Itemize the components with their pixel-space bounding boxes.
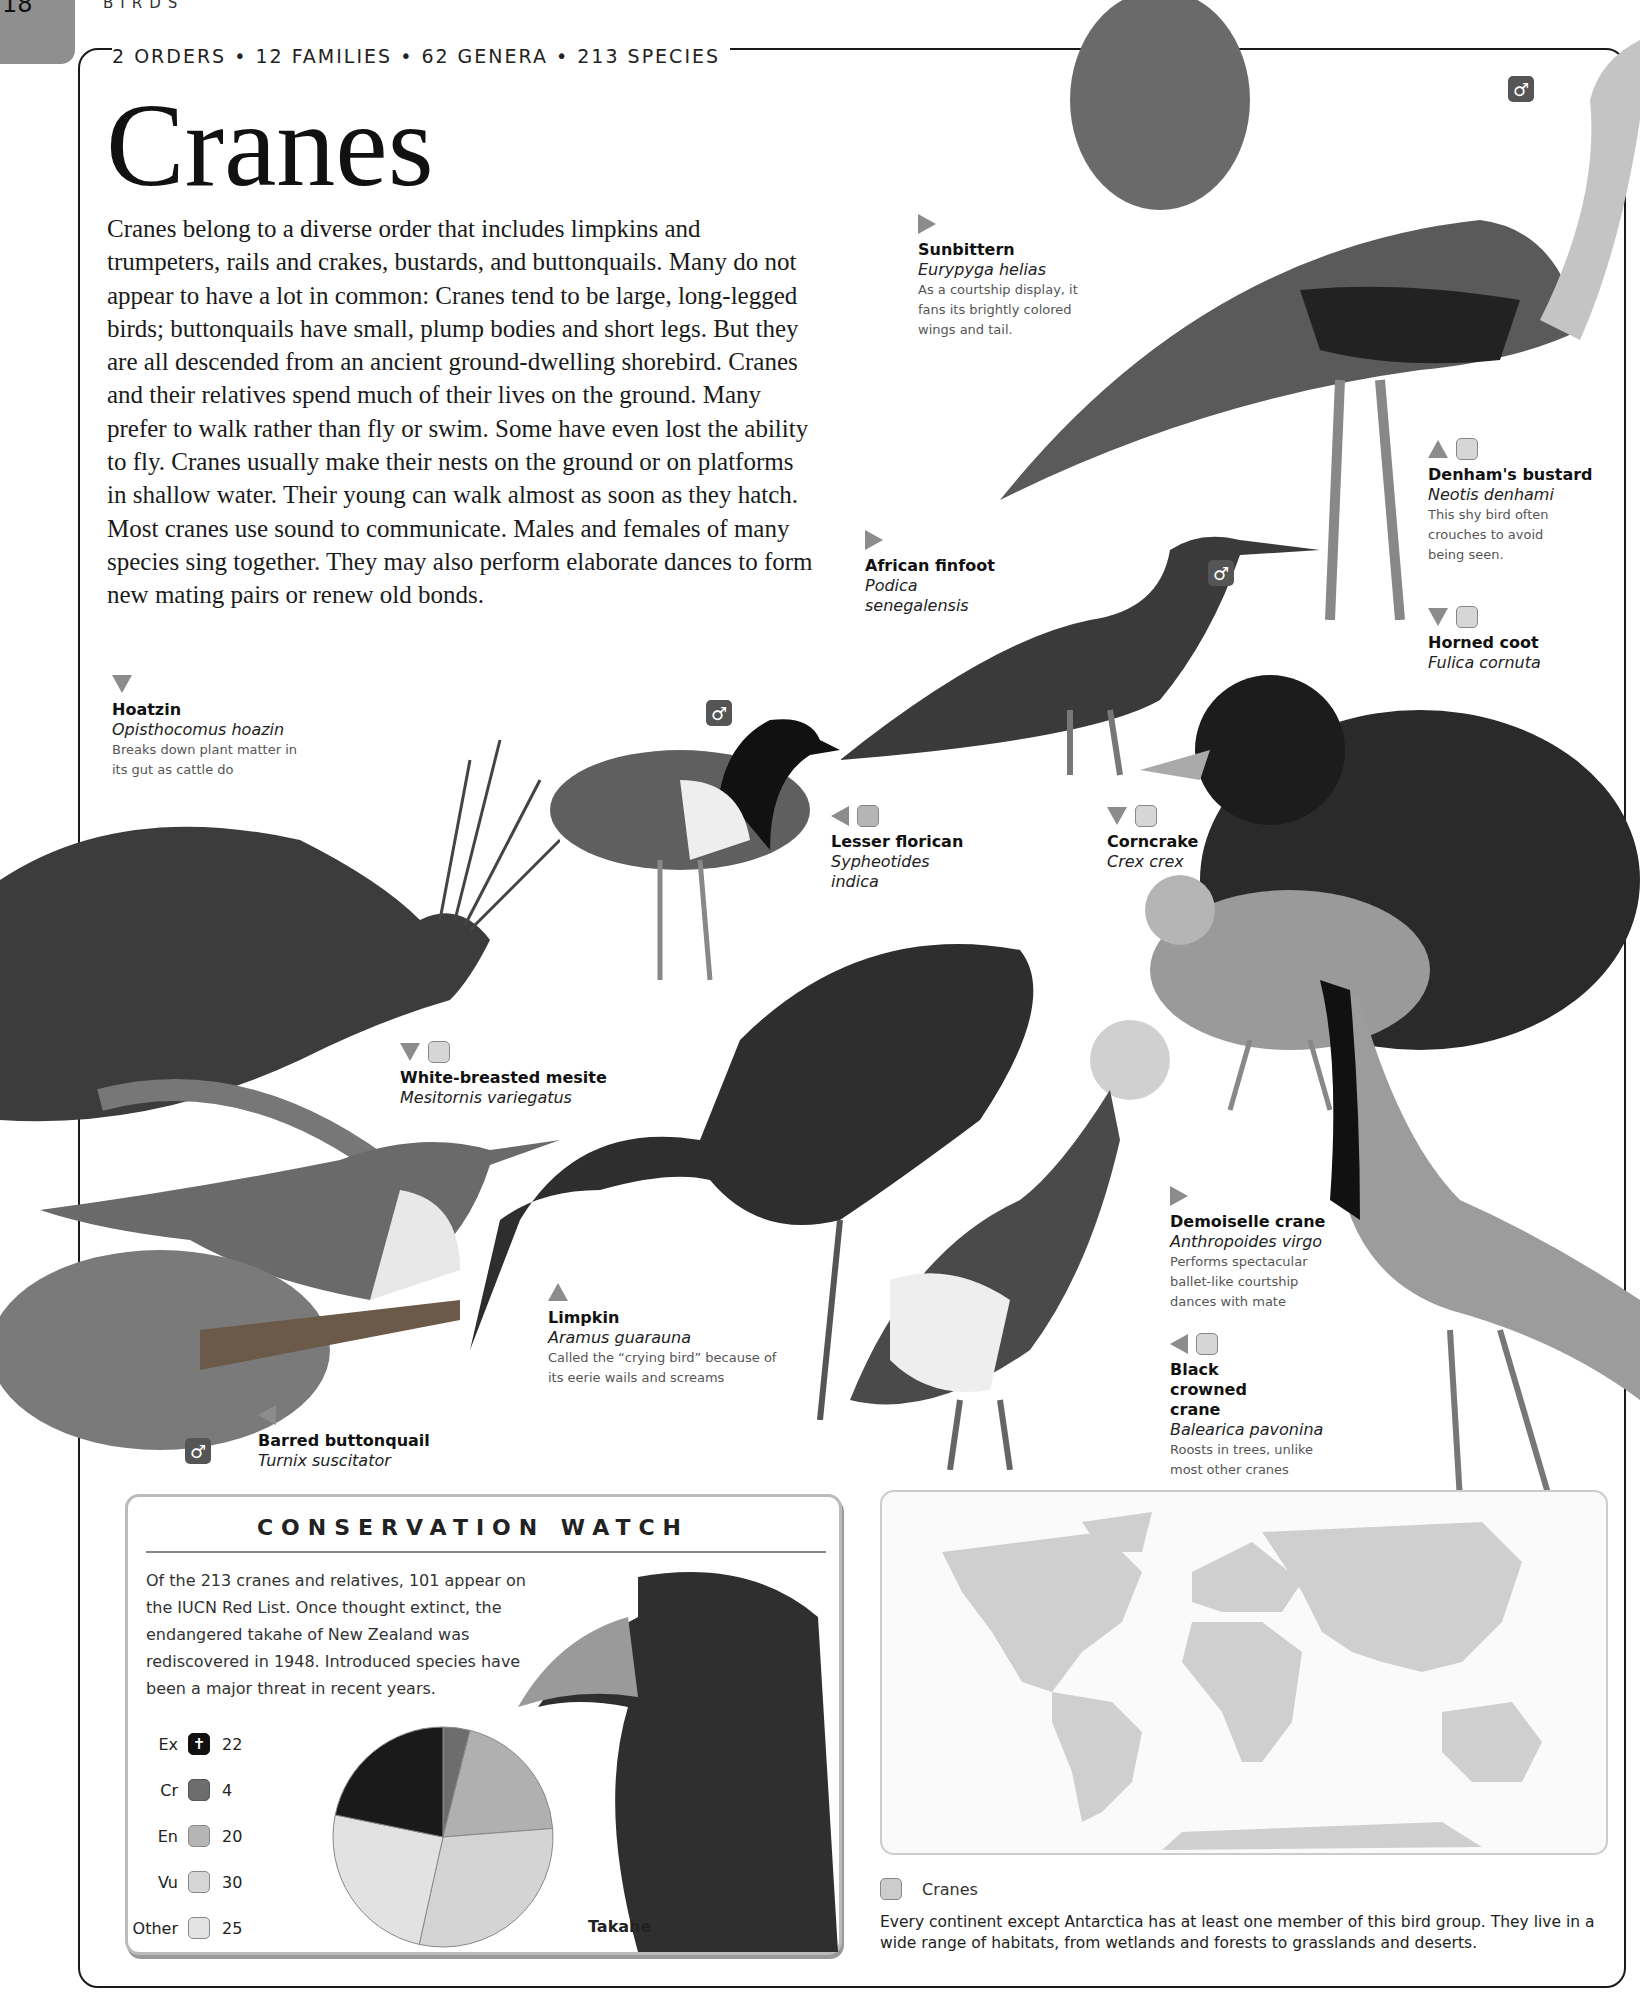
pointer-down-icon: [1428, 608, 1448, 626]
vulnerable-status-icon: [1456, 606, 1478, 628]
iucn-pie-chart: [328, 1722, 558, 1952]
intro-paragraph: Cranes belong to a diverse order that in…: [107, 212, 819, 612]
vulnerable-status-icon: [188, 1871, 210, 1893]
pointer-right-icon: [1170, 1186, 1188, 1206]
section-label: BIRDS: [103, 0, 184, 12]
distribution-map: [880, 1490, 1608, 1855]
male-symbol-icon: ♂: [1508, 76, 1534, 102]
species-label-african-finfoot: African finfoot Podica senegalensis: [865, 528, 995, 616]
species-label-white-breasted-mesite: White-breasted mesite Mesitornis variega…: [400, 1040, 607, 1108]
species-label-sunbittern: Sunbittern Eurypyga helias As a courtshi…: [918, 212, 1088, 340]
pointer-left-icon: [831, 806, 849, 826]
male-symbol-icon: ♂: [185, 1438, 211, 1464]
page-number: 18: [2, 0, 33, 18]
takahe-label: Takahe: [588, 1917, 651, 1936]
species-label-hoatzin: Hoatzin Opisthocomus hoazin Breaks down …: [112, 672, 302, 780]
map-legend-label: Cranes: [922, 1880, 978, 1899]
divider: [146, 1551, 826, 1553]
pointer-left-icon: [258, 1405, 276, 1425]
taxonomy-stats: 2 ORDERS • 12 FAMILIES • 62 GENERA • 213…: [112, 45, 730, 67]
legend-row-other: Other 25: [128, 1917, 242, 1939]
vulnerable-status-icon: [1456, 438, 1478, 460]
species-label-barred-buttonquail: Barred buttonquail Turnix suscitator: [258, 1403, 430, 1471]
pointer-down-icon: [400, 1043, 420, 1061]
legend-row-vu: Vu 30: [128, 1871, 242, 1893]
world-map: [882, 1492, 1606, 1853]
legend-row-ex: Ex ✝ 22: [128, 1733, 242, 1755]
vulnerable-status-icon: [1135, 805, 1157, 827]
pointer-left-icon: [1170, 1334, 1188, 1354]
pointer-right-icon: [865, 530, 883, 550]
species-label-horned-coot: Horned coot Fulica cornuta: [1428, 605, 1541, 673]
species-label-demoiselle-crane: Demoiselle crane Anthropoides virgo Perf…: [1170, 1184, 1330, 1312]
critical-status-icon: [188, 1779, 210, 1801]
demoiselle-crane-illustration: [1300, 980, 1640, 1500]
species-label-denhams-bustard: Denham's bustard Neotis denhami This shy…: [1428, 437, 1593, 565]
pointer-right-icon: [918, 214, 936, 234]
other-status-icon: [188, 1917, 210, 1939]
species-label-black-crowned-crane: Black crowned crane Balearica pavonina R…: [1170, 1332, 1340, 1480]
legend-row-cr: Cr 4: [128, 1779, 232, 1801]
endangered-status-icon: [188, 1825, 210, 1847]
pointer-down-icon: [1107, 807, 1127, 825]
species-label-corncrake: Corncrake Crex crex: [1107, 804, 1198, 872]
pointer-up-icon: [548, 1283, 568, 1301]
page-title: Cranes: [106, 78, 434, 214]
lesser-florican-illustration: [540, 700, 840, 990]
map-caption: Every continent except Antarctica has at…: [880, 1912, 1600, 1954]
pointer-down-icon: [112, 675, 132, 693]
endangered-status-icon: [857, 805, 879, 827]
legend-row-en: En 20: [128, 1825, 242, 1847]
species-label-lesser-florican: Lesser florican Sypheotides indica: [831, 804, 963, 892]
vulnerable-status-icon: [428, 1041, 450, 1063]
vulnerable-status-icon: [1196, 1333, 1218, 1355]
cranes-range-swatch: [880, 1878, 902, 1900]
takahe-illustration: [518, 1557, 838, 1952]
map-legend: Cranes: [880, 1878, 978, 1900]
species-label-limpkin: Limpkin Aramus guarauna Called the “cryi…: [548, 1280, 788, 1388]
conservation-title: CONSERVATION WATCH: [128, 1515, 818, 1540]
pointer-up-icon: [1428, 440, 1448, 458]
male-symbol-icon: ♂: [1208, 560, 1234, 586]
conservation-watch-panel: CONSERVATION WATCH Of the 213 cranes and…: [125, 1494, 842, 1955]
cross-icon: ✝: [188, 1733, 210, 1755]
male-symbol-icon: ♂: [706, 700, 732, 726]
conservation-text: Of the 213 cranes and relatives, 101 app…: [146, 1567, 526, 1702]
page-tab: 18: [0, 0, 75, 64]
